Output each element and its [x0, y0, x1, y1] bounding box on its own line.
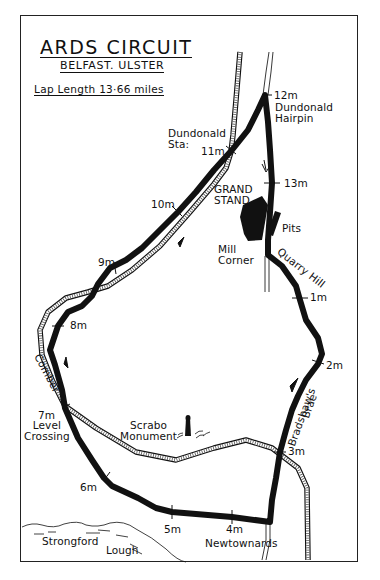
mile-marker-4m: 4m [226, 524, 243, 535]
mile-marker-13m: 13m [284, 178, 308, 189]
mile-marker-6m: 6m [80, 482, 97, 493]
label-level-crossing: Level Crossing [24, 420, 70, 442]
label-scrabo-monument: Scrabo Monument [120, 420, 177, 442]
label-strangford: Strongford [42, 536, 99, 547]
label-dundonald-station: Dundonald Sta: [168, 128, 226, 150]
mile-marker-12m: 12m [274, 90, 298, 101]
map-title: ARDS CIRCUIT [40, 38, 192, 58]
mile-marker-5m: 5m [164, 524, 181, 535]
map-subtitle: BELFAST. ULSTER [60, 60, 164, 73]
lap-length: Lap Length 13·66 miles [34, 83, 164, 96]
mile-marker-3m: 3m [288, 446, 305, 457]
mile-marker-10m: 10m [151, 199, 175, 210]
label-dundonald-hairpin: Dundonald Hairpin [275, 102, 333, 124]
label-lough: Lough [106, 545, 139, 556]
direction-arrows [64, 160, 298, 392]
mile-marker-8m: 8m [70, 320, 87, 331]
road-mill-corner [265, 256, 269, 292]
label-grand-stand: GRAND STAND [214, 184, 253, 206]
mile-marker-1m: 1m [310, 292, 327, 303]
scrabo-monument-icon [177, 415, 210, 438]
mile-marker-2m: 2m [326, 360, 343, 371]
label-pits: Pits [282, 223, 301, 234]
label-newtownards: Newtownards [205, 538, 278, 549]
road-north [263, 52, 273, 95]
label-mill-corner: Mill Corner [218, 244, 254, 266]
mile-marker-9m: 9m [98, 257, 115, 268]
